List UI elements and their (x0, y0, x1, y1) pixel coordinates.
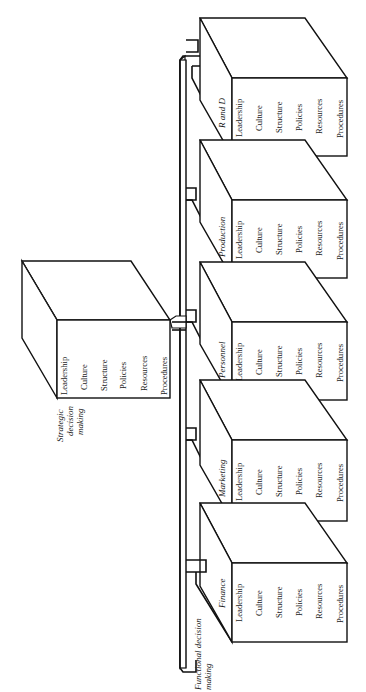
unit-item: Leadership (234, 584, 244, 622)
unit-title-personnel: Personnel (217, 341, 227, 379)
functional-title-line: Functional decision (193, 618, 203, 691)
unit-item: Procedures (335, 584, 345, 623)
unit-item: Procedures (335, 99, 345, 138)
unit-item: Procedures (335, 221, 345, 260)
strategic-item: Culture (79, 364, 89, 390)
functional-title-line: making (203, 663, 213, 690)
unit-item: Leadership (234, 343, 244, 381)
unit-item: Structure (274, 465, 284, 497)
functional-title: Functional decision making (193, 618, 213, 691)
unit-item: Structure (274, 345, 284, 377)
unit-item: Culture (254, 349, 264, 375)
unit-item: Structure (274, 101, 284, 133)
functional-box-r-and-d (186, 18, 347, 156)
strategic-item: Resources (139, 355, 149, 391)
functional-box-finance (186, 503, 347, 642)
unit-item: Leadership (234, 463, 244, 501)
unit-item: Culture (254, 227, 264, 253)
unit-title-marketing: Marketing (217, 459, 227, 498)
organizational-decision-diagram: Leadership Culture Structure Policies Re… (0, 0, 366, 692)
unit-item: Policies (294, 347, 304, 375)
unit-item: Procedures (335, 463, 345, 502)
unit-item: Policies (294, 467, 304, 495)
strategic-title: Strategic decision making (55, 406, 85, 442)
unit-item: Resources (314, 583, 324, 619)
unit-item: Procedures (335, 343, 345, 382)
strategic-title-line: decision (65, 406, 75, 436)
strategic-item: Leadership (59, 357, 69, 395)
unit-item: Resources (314, 462, 324, 498)
unit-title-production: Production (217, 216, 227, 258)
strategic-item: Procedures (159, 356, 169, 395)
strategic-title-line: Strategic (55, 410, 65, 443)
unit-item: Resources (314, 98, 324, 134)
unit-item: Culture (254, 105, 264, 131)
strategic-title-line: making (75, 408, 85, 435)
functional-box-production (186, 140, 347, 278)
unit-title-finance: Finance (217, 579, 227, 610)
unit-item: Leadership (234, 221, 244, 259)
unit-item: Culture (254, 590, 264, 616)
strategic-connector (170, 316, 186, 330)
unit-item: Policies (294, 225, 304, 253)
unit-item: Policies (294, 588, 304, 616)
unit-item: Resources (314, 220, 324, 256)
unit-item: Leadership (234, 99, 244, 137)
unit-title-r-and-d: R and D (217, 98, 227, 129)
strategic-item: Policies (118, 361, 128, 389)
strategic-item: Structure (99, 359, 109, 391)
functional-box-marketing (186, 380, 347, 521)
unit-item: Resources (314, 342, 324, 378)
unit-item: Structure (274, 586, 284, 618)
unit-item: Policies (294, 103, 304, 131)
unit-item: Culture (254, 469, 264, 495)
unit-item: Structure (274, 223, 284, 255)
